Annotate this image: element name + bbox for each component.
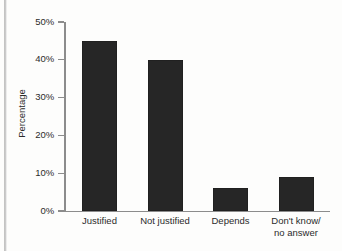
bar-chart-figure: Percentage 0%10%20%30%40%50% JustifiedNo…: [0, 0, 342, 251]
y-tick-mark: [58, 59, 64, 60]
y-tick-label: 0%: [10, 205, 54, 216]
y-tick-mark: [58, 21, 64, 22]
bar: [279, 177, 314, 211]
y-tick-label: 50%: [10, 16, 54, 27]
y-tick-label-wrap: 50%: [10, 16, 54, 28]
y-tick-label: 20%: [10, 129, 54, 140]
plot-area: Percentage 0%10%20%30%40%50% JustifiedNo…: [0, 0, 342, 251]
y-tick-mark: [58, 97, 64, 98]
y-tick-mark: [58, 135, 64, 136]
y-tick-label-wrap: 30%: [10, 91, 54, 103]
y-axis-line: [64, 22, 66, 212]
y-tick-label: 10%: [10, 167, 54, 178]
y-tick-label-wrap: 0%: [10, 205, 54, 217]
y-tick-mark: [58, 210, 64, 211]
y-tick-label-wrap: 40%: [10, 53, 54, 65]
y-tick-label-wrap: 20%: [10, 129, 54, 141]
bar: [82, 41, 117, 211]
y-axis-title: Percentage: [16, 74, 27, 154]
y-tick-label: 40%: [10, 53, 54, 64]
y-tick-label: 30%: [10, 91, 54, 102]
bar: [213, 188, 248, 211]
bar: [148, 60, 183, 211]
x-tick-label: Don't know/ no answer: [251, 215, 341, 238]
y-tick-label-wrap: 10%: [10, 167, 54, 179]
y-tick-mark: [58, 173, 64, 174]
